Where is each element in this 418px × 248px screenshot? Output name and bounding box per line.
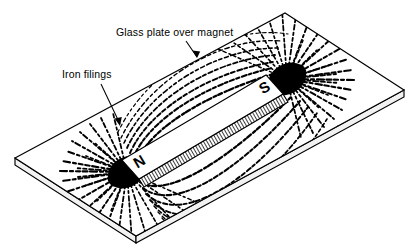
glass-plate-label: Glass plate over magnet	[116, 26, 233, 38]
figure-canvas: N S Glass plate over magnet Iron filings	[0, 0, 418, 248]
iron-filings-label: Iron filings	[62, 68, 112, 80]
magnetic-field-figure: N S Glass plate over magnet Iron filings	[0, 0, 418, 248]
